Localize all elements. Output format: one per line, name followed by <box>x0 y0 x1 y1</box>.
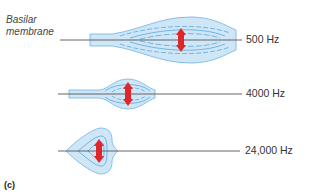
frequency-label-24000: 24,000 Hz <box>245 144 293 156</box>
frequency-label-4000: 4000 Hz <box>246 87 285 99</box>
membrane-4000hz <box>58 79 242 109</box>
membrane-500hz <box>60 17 242 63</box>
membrane-24000hz <box>58 128 240 174</box>
panel-label: (c) <box>4 180 15 190</box>
frequency-label-500: 500 Hz <box>246 33 279 45</box>
